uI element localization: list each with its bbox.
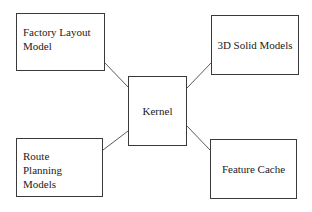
- node-feature-cache: Feature Cache: [210, 139, 297, 199]
- node-route-planning-models: Route Planning Models: [16, 138, 103, 197]
- kernel-architecture-diagram: Factory Layout Model 3D Solid Models Ker…: [0, 0, 312, 212]
- node-label: 3D Solid Models: [217, 38, 292, 52]
- edge-solid-to-kernel: [187, 63, 211, 88]
- node-factory-layout-model: Factory Layout Model: [16, 13, 105, 71]
- node-3d-solid-models: 3D Solid Models: [211, 15, 299, 75]
- node-kernel: Kernel: [128, 76, 187, 146]
- node-label: Kernel: [143, 104, 173, 118]
- node-label: Factory Layout Model: [23, 25, 100, 53]
- edge-route-to-kernel: [103, 131, 128, 150]
- node-label: Route Planning Models: [23, 149, 98, 191]
- edge-factory-to-kernel: [104, 62, 128, 87]
- edge-feature-to-kernel: [186, 125, 210, 150]
- node-label: Feature Cache: [222, 162, 285, 176]
